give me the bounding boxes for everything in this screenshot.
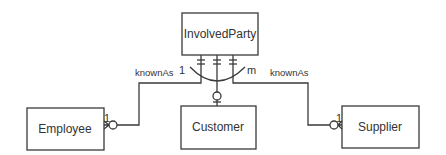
entity-supplier[interactable]: Supplier <box>342 106 419 148</box>
optional-circle-icon <box>109 121 117 129</box>
entity-involvedparty[interactable]: InvolvedParty <box>182 13 258 55</box>
entity-customer[interactable]: Customer <box>181 106 256 149</box>
entity-label-employee: Employee <box>38 122 92 136</box>
er-diagram: InvolvedParty Employee Customer Supplier… <box>0 0 446 155</box>
entity-label-supplier: Supplier <box>358 120 402 134</box>
entity-label-involvedparty: InvolvedParty <box>184 27 257 41</box>
cardinality-label-supplier: 1 <box>336 112 342 124</box>
arc-label-one: 1 <box>179 64 185 76</box>
relationship-label-knownas-right: knownAs <box>270 67 309 78</box>
cardinality-label-employee: 1 <box>104 112 110 124</box>
arc-label-many: m <box>247 64 256 76</box>
entity-employee[interactable]: Employee <box>27 108 104 150</box>
relationship-label-knownas-left: knownAs <box>135 67 174 78</box>
optional-circle-icon <box>213 92 221 100</box>
entity-label-customer: Customer <box>192 120 244 134</box>
